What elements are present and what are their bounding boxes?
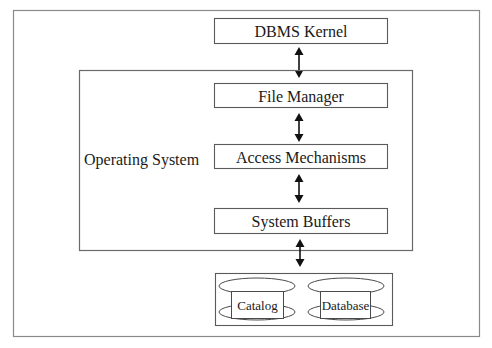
database-label: Database <box>322 298 370 313</box>
dbms-kernel-label: DBMS Kernel <box>255 23 348 40</box>
dbms-architecture-diagram: DBMS Kernel Operating System File Manage… <box>0 0 492 348</box>
arrow-access-buffers-icon <box>295 174 304 203</box>
layer-access-mechanisms: Access Mechanisms <box>215 145 388 169</box>
layer-file-manager: File Manager <box>215 84 388 108</box>
layer-system-buffers: System Buffers <box>215 209 388 234</box>
access-mechanisms-label: Access Mechanisms <box>236 149 366 166</box>
arrow-kernel-file-manager-icon <box>295 47 304 78</box>
arrow-buffers-storage-icon <box>296 239 305 267</box>
file-manager-label: File Manager <box>258 88 344 106</box>
system-buffers-label: System Buffers <box>252 213 351 231</box>
arrow-file-manager-access-icon <box>295 113 304 142</box>
layer-dbms-kernel: DBMS Kernel <box>215 19 388 44</box>
catalog-label: Catalog <box>237 298 278 313</box>
operating-system-label: Operating System <box>84 151 200 169</box>
